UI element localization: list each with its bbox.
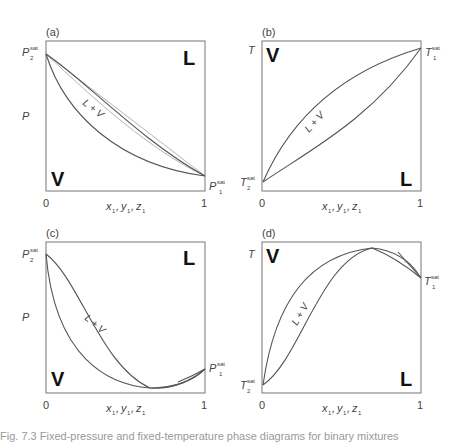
svg-text:x: x	[105, 200, 112, 212]
svg-text:sat: sat	[247, 175, 255, 181]
panel-b-phase-liquid: L	[400, 168, 412, 190]
panel-d-t2-sat-label: T sat 2	[240, 378, 255, 394]
svg-text:sat: sat	[217, 361, 225, 367]
panel-c-phase-vapor: V	[51, 368, 65, 390]
panel-b-x-tick-1: 1	[417, 197, 423, 209]
svg-text:1: 1	[219, 189, 223, 195]
panel-c-x-tick-0: 0	[43, 399, 49, 411]
svg-text:x: x	[321, 402, 328, 414]
panel-d: (d) L + V V L L + V T T sat 2 T sat 1 0 …	[240, 227, 439, 416]
panel-c-x-label: x 1 , y 1 , z 1	[105, 402, 146, 416]
panel-c-dew-curve	[46, 254, 205, 388]
svg-text:P: P	[209, 180, 217, 192]
panel-d-bubble-curve	[263, 248, 421, 385]
svg-text:z: z	[351, 402, 358, 414]
svg-text:z: z	[351, 200, 358, 212]
panel-d-y-symbol: T	[248, 248, 256, 260]
svg-text:2: 2	[30, 257, 34, 263]
panel-c-p1-sat-label: P sat 1	[209, 361, 225, 377]
panel-b-dew-curve	[263, 48, 421, 182]
panel-a-phase-vapor: V	[51, 168, 65, 190]
panel-a-label: (a)	[46, 26, 59, 38]
panel-a-x-tick-1: 1	[201, 197, 207, 209]
svg-text:sat: sat	[30, 247, 38, 253]
svg-text:,: ,	[116, 200, 119, 212]
panel-d-frame	[262, 242, 421, 393]
panel-a-x-tick-0: 0	[43, 197, 49, 209]
svg-text:,: ,	[347, 200, 350, 212]
panel-d-phase-vapor: V	[266, 245, 280, 267]
panel-b-x-tick-0: 0	[259, 197, 265, 209]
panel-c-label: (c)	[46, 227, 59, 239]
panel-b: (b) V L L + V T T sat 2 T sat 1 0 1 x 1 …	[240, 26, 440, 214]
svg-text:1: 1	[433, 55, 437, 61]
svg-text:x: x	[105, 402, 112, 414]
panel-b-y-symbol: T	[248, 44, 256, 56]
panel-d-x-tick-0: 0	[259, 399, 265, 411]
figure-caption-fragment: Fig. 7.3 Fixed-pressure and fixed-temper…	[0, 430, 460, 442]
panel-b-label: (b)	[262, 26, 275, 38]
panel-b-region-label: L + V	[302, 109, 327, 135]
panel-d-dew-curve	[263, 248, 421, 385]
svg-text:1: 1	[432, 284, 436, 290]
panel-b-bubble-curve	[263, 48, 421, 182]
panel-b-t1-sat-label: T sat 1	[425, 45, 440, 61]
svg-text:1: 1	[358, 410, 362, 416]
svg-text:z: z	[135, 402, 142, 414]
panel-a-frame	[46, 41, 205, 191]
svg-text:1: 1	[142, 208, 146, 214]
svg-text:1: 1	[219, 371, 223, 377]
svg-text:P: P	[22, 46, 30, 58]
panel-b-x-label: x 1 , y 1 , z 1	[321, 200, 362, 214]
panel-c: (c) L + V L V L + V P P sat 2 P sat 1 0 …	[22, 227, 225, 416]
svg-text:sat: sat	[217, 179, 225, 185]
svg-text:,: ,	[347, 402, 350, 414]
panel-c-p2-sat-label: P sat 2	[22, 247, 38, 263]
svg-text:2: 2	[247, 185, 251, 191]
panel-b-t2-sat-label: T sat 2	[240, 175, 255, 191]
svg-text:2: 2	[247, 388, 251, 394]
svg-text:x: x	[321, 200, 328, 212]
svg-text:1: 1	[142, 410, 146, 416]
svg-text:,: ,	[131, 200, 134, 212]
svg-text:,: ,	[131, 402, 134, 414]
panel-c-phase-liquid: L	[183, 247, 195, 269]
panel-b-phase-vapor: V	[266, 44, 280, 66]
svg-text:sat: sat	[432, 45, 440, 51]
panel-a: (a) L V L + V P P sat 2 P sat 1 0 1 x 1 …	[22, 26, 225, 214]
svg-text:P: P	[209, 362, 217, 374]
svg-text:z: z	[135, 200, 142, 212]
panel-b-frame	[262, 41, 421, 191]
panel-d-x-tick-1: 1	[417, 399, 423, 411]
svg-text:,: ,	[116, 402, 119, 414]
panel-c-bubble-curve	[46, 254, 205, 388]
panel-d-label: (d)	[262, 227, 275, 239]
svg-text:2: 2	[30, 55, 34, 61]
panel-c-x-tick-1: 1	[201, 399, 207, 411]
panel-d-region-label: L + V	[289, 300, 311, 327]
svg-text:1: 1	[358, 208, 362, 214]
svg-text:P: P	[22, 248, 30, 260]
panel-d-t1-sat-label: T sat 1	[424, 274, 439, 290]
panel-c-y-symbol: P	[22, 311, 30, 323]
panel-a-phase-liquid: L	[183, 47, 195, 69]
panel-c-small-region-label: L + V	[188, 375, 196, 381]
panel-c-region-label: L + V	[83, 312, 109, 336]
svg-text:sat: sat	[30, 45, 38, 51]
panel-a-y-symbol: P	[22, 110, 30, 122]
svg-text:sat: sat	[247, 378, 255, 384]
panel-d-x-label: x 1 , y 1 , z 1	[321, 402, 362, 416]
panel-a-p2-sat-label: P sat 2	[22, 45, 38, 61]
svg-text:,: ,	[332, 200, 335, 212]
svg-text:,: ,	[332, 402, 335, 414]
panel-d-phase-liquid: L	[400, 368, 412, 390]
svg-text:sat: sat	[431, 274, 439, 280]
panel-a-p1-sat-label: P sat 1	[209, 179, 225, 195]
panel-a-x-label: x 1 , y 1 , z 1	[105, 200, 146, 214]
